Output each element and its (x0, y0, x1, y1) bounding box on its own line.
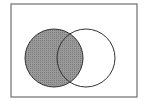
venn-diagram (0, 0, 145, 101)
set-a-circle (25, 29, 83, 87)
